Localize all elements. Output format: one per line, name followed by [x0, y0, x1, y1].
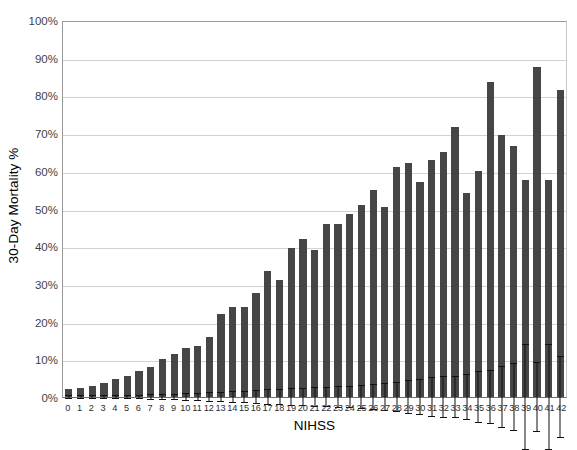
bar-cell: [320, 22, 332, 397]
x-axis-tick: 26: [368, 400, 380, 416]
x-axis-tick: 23: [332, 400, 344, 416]
bar-cell: [122, 22, 134, 397]
bar: [545, 180, 552, 397]
bar-cell: [75, 22, 87, 397]
x-axis-tick: 14: [227, 400, 239, 416]
bar-cell: [215, 22, 227, 397]
bar: [451, 127, 458, 397]
x-axis-tick: 42: [556, 400, 568, 416]
bar-cell: [332, 22, 344, 397]
x-axis-tick: 36: [485, 400, 497, 416]
x-axis-tick: 20: [297, 400, 309, 416]
x-axis-tick: 40: [532, 400, 544, 416]
bar-cell: [168, 22, 180, 397]
bar: [276, 280, 283, 397]
bar-cell: [555, 22, 567, 397]
bar-cell: [356, 22, 368, 397]
y-axis-tick: 100%: [12, 15, 58, 27]
bar: [135, 371, 142, 397]
bar-cell: [484, 22, 496, 397]
bar: [89, 386, 96, 397]
bar: [475, 171, 482, 397]
y-axis-tick-labels: 0%10%20%30%40%50%60%70%80%90%100%: [8, 0, 58, 442]
x-axis-tick: 19: [285, 400, 297, 416]
y-axis-tick: 20%: [12, 317, 58, 329]
error-bar: [92, 395, 93, 398]
x-axis-tick: 11: [191, 400, 203, 416]
x-axis-tick: 21: [309, 400, 321, 416]
bar: [77, 388, 84, 397]
x-axis-tick: 12: [203, 400, 215, 416]
bar-cell: [379, 22, 391, 397]
bar: [288, 248, 295, 397]
bar: [252, 293, 259, 397]
x-axis-tick: 25: [356, 400, 368, 416]
x-axis-tick: 33: [450, 400, 462, 416]
bar-cell: [63, 22, 75, 397]
x-axis-tick: 22: [321, 400, 333, 416]
bar: [159, 359, 166, 397]
bar-cell: [157, 22, 169, 397]
error-bar: [548, 344, 549, 450]
x-axis-tick: 2: [86, 400, 98, 416]
bar-cell: [110, 22, 122, 397]
bar: [206, 337, 213, 397]
bar-cell: [262, 22, 274, 397]
bar: [299, 239, 306, 397]
plot-area: [62, 21, 567, 398]
x-axis-tick: 8: [156, 400, 168, 416]
bar: [112, 379, 119, 397]
y-axis-tick: 0%: [12, 392, 58, 404]
bar-cell: [274, 22, 286, 397]
bar-cell: [203, 22, 215, 397]
x-axis-tick: 30: [415, 400, 427, 416]
bar: [428, 160, 435, 398]
bar: [557, 90, 564, 397]
y-axis-tick: 40%: [12, 241, 58, 253]
x-axis-tick: 38: [509, 400, 521, 416]
bar: [370, 190, 377, 397]
x-axis-title: NIHSS: [62, 418, 567, 433]
bar: [217, 314, 224, 397]
x-axis-tick: 7: [144, 400, 156, 416]
bar: [498, 135, 505, 397]
bar-cell: [227, 22, 239, 397]
bar: [393, 167, 400, 397]
bar-cell: [402, 22, 414, 397]
x-axis-tick: 5: [121, 400, 133, 416]
y-axis-tick: 60%: [12, 166, 58, 178]
bar-cell: [297, 22, 309, 397]
x-axis-tick: 34: [462, 400, 474, 416]
bar: [171, 354, 178, 397]
bar-cell: [367, 22, 379, 397]
x-axis-tick: 37: [497, 400, 509, 416]
y-axis-tick: 70%: [12, 128, 58, 140]
bar: [346, 214, 353, 397]
bar-cell: [180, 22, 192, 397]
x-axis-tick: 31: [426, 400, 438, 416]
bar: [182, 348, 189, 397]
error-bar: [139, 395, 140, 400]
x-axis-tick: 1: [74, 400, 86, 416]
bar-cell: [145, 22, 157, 397]
x-axis-tick: 13: [215, 400, 227, 416]
x-axis-tick: 3: [97, 400, 109, 416]
bar-cell: [461, 22, 473, 397]
x-axis-tick: 0: [62, 400, 74, 416]
bar-series: [63, 22, 566, 397]
x-axis-tick: 35: [473, 400, 485, 416]
bar: [533, 67, 540, 397]
error-bar: [525, 344, 526, 450]
x-axis-tick: 16: [250, 400, 262, 416]
x-axis-tick-labels: 0123456789101112131415161718192021222324…: [62, 400, 567, 416]
bar-cell: [449, 22, 461, 397]
bar-cell: [414, 22, 426, 397]
y-axis-tick: 30%: [12, 279, 58, 291]
error-bar: [127, 395, 128, 400]
bar: [381, 207, 388, 397]
x-axis-tick: 10: [180, 400, 192, 416]
y-axis-tick: 90%: [12, 53, 58, 65]
bar: [100, 383, 107, 397]
x-axis-tick: 27: [379, 400, 391, 416]
bar: [264, 271, 271, 397]
